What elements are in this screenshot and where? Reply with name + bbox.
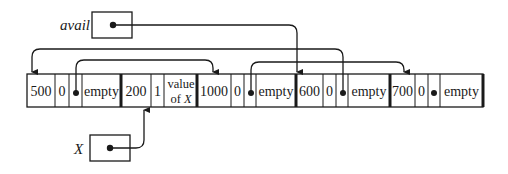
block-size: 1000 <box>200 84 228 99</box>
link-dot <box>431 90 437 96</box>
block-tag: 0 <box>234 84 241 99</box>
block-1000: 1000 0 empty <box>200 74 294 107</box>
x-label: X <box>73 141 84 157</box>
block-size: 200 <box>126 84 147 99</box>
block-content: empty <box>352 84 387 99</box>
storage-diagram: avail 500 0 empty 200 1 value of <box>0 0 508 174</box>
block-tag: 0 <box>418 84 425 99</box>
x-link-arrow <box>110 110 144 148</box>
block-content-line1: value <box>167 77 195 91</box>
link-dot <box>73 90 79 96</box>
block-content: empty <box>444 84 479 99</box>
block-size: 500 <box>31 84 52 99</box>
memory-row: 500 0 empty 200 1 value of X 1000 0 empt… <box>27 74 483 107</box>
block-tag: 1 <box>154 84 161 99</box>
block-500: 500 0 empty <box>31 74 120 107</box>
block-content: empty <box>259 84 294 99</box>
block-content: empty <box>84 84 119 99</box>
block-content-line2: of X <box>170 92 193 106</box>
block-size: 700 <box>392 84 413 99</box>
avail-label: avail <box>60 17 90 33</box>
block-700: 700 0 empty <box>392 74 479 107</box>
link-dot <box>340 90 346 96</box>
block-size: 600 <box>299 84 320 99</box>
link-dot <box>248 90 254 96</box>
block-tag: 0 <box>59 84 66 99</box>
block-200: 200 1 value of X <box>126 74 195 107</box>
block-tag: 0 <box>326 84 333 99</box>
